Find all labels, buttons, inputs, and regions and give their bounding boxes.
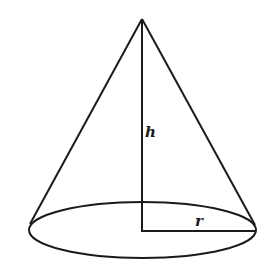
cone-right-edge (142, 19, 255, 225)
cone-diagram: h r (0, 0, 273, 267)
height-label: h (145, 123, 156, 141)
radius-label: r (195, 212, 204, 230)
cone-figure: h r (0, 0, 273, 267)
cone-left-edge (30, 19, 142, 224)
